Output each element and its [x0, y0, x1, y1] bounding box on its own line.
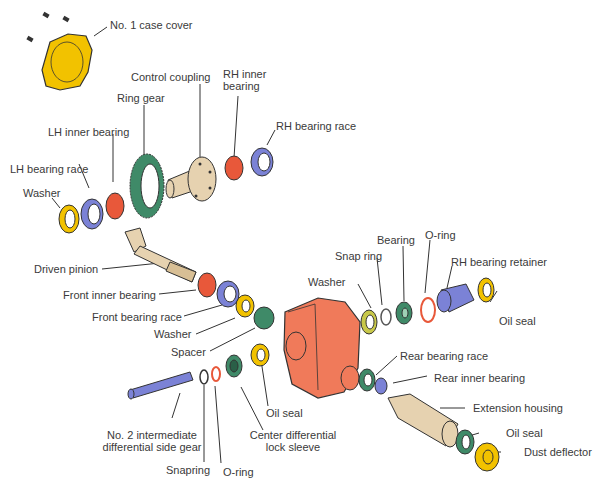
no2-intermediate-side-gear-part — [128, 372, 193, 399]
oil-seal-rear-part — [456, 430, 474, 454]
o-ring-bottom-part — [212, 367, 220, 381]
front-inner-bearing-part — [198, 273, 216, 297]
center-diff-lock-sleeve-part — [226, 355, 242, 377]
label-no1-case-cover: No. 1 case cover — [110, 19, 193, 31]
exploded-parts-diagram: No. 1 case cover Control coupling RH inn… — [0, 0, 603, 484]
label-o-ring-right: O-ring — [425, 229, 456, 241]
snapring-bottom-part — [200, 370, 208, 384]
label-ring-gear: Ring gear — [117, 92, 165, 104]
control-coupling-part — [166, 157, 216, 201]
label-rear-inner-bearing: Rear inner bearing — [434, 372, 525, 384]
label-no2-intermediate-line1: No. 2 intermediate — [100, 429, 204, 441]
label-rh-bearing-race: RH bearing race — [276, 120, 356, 132]
label-dust-deflector: Dust deflector — [524, 446, 592, 458]
label-snapring-bottom: Snapring — [166, 464, 210, 476]
rh-bearing-retainer-part — [437, 284, 474, 312]
label-extension-housing: Extension housing — [473, 402, 563, 414]
bearing-part — [396, 302, 412, 324]
label-o-ring-bottom: O-ring — [223, 466, 254, 478]
washer-left-part — [59, 205, 79, 233]
label-oil-seal-rear: Oil seal — [506, 427, 543, 439]
rear-bearing-race-part — [359, 369, 375, 391]
washer-mid-part — [236, 295, 254, 317]
label-control-coupling: Control coupling — [131, 71, 211, 83]
case-cover-part — [26, 12, 92, 90]
label-snap-ring: Snap ring — [335, 250, 382, 262]
ring-gear-part — [130, 154, 164, 218]
label-oil-seal-center: Oil seal — [266, 407, 303, 419]
dust-deflector-part — [475, 443, 499, 471]
label-rh-inner-bearing-line1: RH inner — [223, 68, 266, 80]
label-center-diff-lock-sleeve-line2: lock sleeve — [233, 441, 353, 453]
o-ring-right-part — [421, 298, 435, 322]
snap-ring-part — [381, 309, 391, 325]
lh-inner-bearing-part — [106, 193, 124, 219]
rh-bearing-race-part — [251, 148, 273, 176]
label-washer-mid: Washer — [154, 328, 192, 340]
label-washer-right: Washer — [308, 276, 346, 288]
driven-pinion-part — [125, 228, 196, 282]
label-lh-bearing-race: LH bearing race — [10, 163, 88, 175]
oil-seal-center-part — [251, 344, 269, 366]
front-bearing-race-part — [217, 281, 239, 307]
spacer-part — [254, 307, 274, 329]
label-spacer: Spacer — [171, 346, 206, 358]
transfer-case-part — [284, 298, 360, 398]
oil-seal-right-part — [478, 278, 494, 302]
label-no2-intermediate-line2: differential side gear — [96, 441, 208, 453]
rear-inner-bearing-part — [375, 378, 387, 394]
label-rh-bearing-retainer: RH bearing retainer — [451, 256, 547, 268]
lh-bearing-race-part — [81, 199, 103, 229]
label-center-diff-lock-sleeve-line1: Center differential — [233, 429, 353, 441]
label-rh-inner-bearing-line2: bearing — [223, 80, 260, 92]
label-lh-inner-bearing: LH inner bearing — [48, 126, 129, 138]
label-front-bearing-race: Front bearing race — [92, 311, 182, 323]
washer-right-part — [361, 310, 377, 334]
label-washer-left: Washer — [23, 187, 61, 199]
extension-housing-part — [388, 394, 458, 447]
label-oil-seal-right: Oil seal — [499, 315, 536, 327]
label-driven-pinion: Driven pinion — [34, 263, 98, 275]
label-rear-bearing-race: Rear bearing race — [400, 350, 488, 362]
label-bearing: Bearing — [377, 234, 415, 246]
label-front-inner-bearing: Front inner bearing — [63, 289, 156, 301]
rh-inner-bearing-part — [225, 156, 243, 180]
